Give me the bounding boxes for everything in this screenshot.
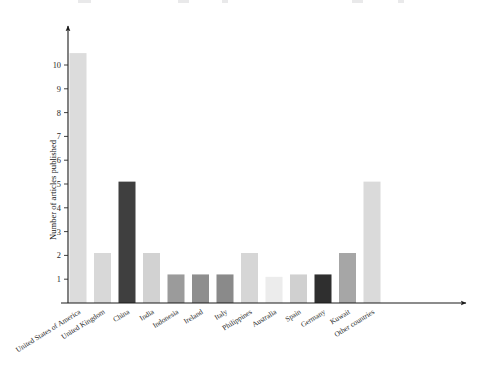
- bar: [168, 274, 185, 303]
- x-category-label-group: United States of AmericaUnited KingdomCh…: [14, 307, 376, 355]
- y-tick-label: 9: [57, 85, 61, 94]
- x-category-label: China: [111, 307, 131, 324]
- bar: [143, 253, 160, 303]
- y-axis-title: Number of articles published: [48, 139, 58, 240]
- y-tick-label: 8: [57, 109, 61, 118]
- y-tick-label: 1: [57, 275, 61, 284]
- bar: [315, 274, 332, 303]
- bar: [94, 253, 111, 303]
- y-tick-label: 10: [53, 61, 61, 70]
- x-category-label: Germany: [299, 307, 327, 329]
- bar: [290, 274, 307, 303]
- bar: [364, 182, 381, 303]
- bar: [266, 277, 283, 303]
- bar: [339, 253, 356, 303]
- bar: [241, 253, 258, 303]
- bar: [217, 274, 234, 303]
- y-tick-label: 2: [57, 251, 61, 260]
- x-category-label: Ireland: [182, 307, 205, 326]
- chart-figure: 12345678910 United States of AmericaUnit…: [0, 0, 497, 370]
- bar: [192, 274, 209, 303]
- x-category-label: Indonesia: [151, 307, 181, 330]
- x-category-label: Australia: [250, 307, 278, 329]
- bar-chart-plot: 12345678910 United States of AmericaUnit…: [0, 0, 497, 370]
- bar: [119, 182, 136, 303]
- bar: [70, 53, 87, 303]
- bars-group: [70, 53, 381, 303]
